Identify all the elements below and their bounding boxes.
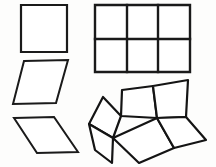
figure-container <box>0 0 216 167</box>
geometry-figure-canvas <box>0 0 216 167</box>
rectangle-grid-group <box>95 5 190 72</box>
rhombi-net-group <box>89 80 206 163</box>
net-face-right-upper <box>153 80 188 118</box>
net-face-center-upper <box>121 86 157 118</box>
parallelogram-flat-shape <box>14 117 78 153</box>
square-shape <box>21 5 67 52</box>
parallelogram-steep-shape <box>13 60 68 104</box>
